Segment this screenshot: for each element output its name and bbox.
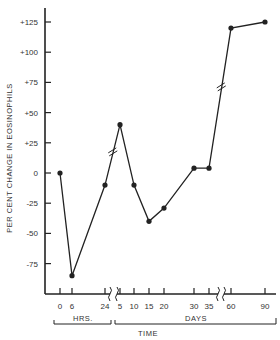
data-point [131, 182, 136, 187]
y-tick-label: +100 [20, 48, 39, 57]
x-tick-label: 60 [227, 302, 236, 311]
x-tick-label: 5 [118, 302, 123, 311]
x-tick-label: 6 [70, 302, 75, 311]
data-point [146, 219, 151, 224]
y-tick-label: +25 [24, 139, 38, 148]
x-tick-label: 0 [58, 302, 63, 311]
x-tick-label: 30 [190, 302, 199, 311]
data-point [102, 182, 107, 187]
x-tick-label: 24 [101, 302, 110, 311]
y-tick-label: -50 [26, 229, 38, 238]
y-tick-label: +75 [24, 78, 38, 87]
y-tick-label: +125 [20, 18, 39, 27]
eosinophil-line-chart: +125+100+75+50+250-25-50-75 062451015203… [0, 0, 280, 340]
x-group-days-label: DAYS [185, 314, 207, 323]
data-point [191, 166, 196, 171]
data-point [161, 205, 166, 210]
x-tick-label: 90 [261, 302, 270, 311]
x-tick-label: 35 [205, 302, 214, 311]
data-point [57, 170, 62, 175]
data-series [57, 19, 267, 278]
y-tick-label: -75 [26, 260, 38, 269]
data-point [206, 166, 211, 171]
data-point [228, 25, 233, 30]
y-axis-ticks: +125+100+75+50+250-25-50-75 [20, 18, 51, 269]
x-axis-title: TIME [138, 329, 158, 338]
y-tick-label: 0 [34, 169, 39, 178]
data-point [69, 273, 74, 278]
axes [45, 8, 276, 294]
x-group-hrs-label: HRS. [73, 314, 93, 323]
x-tick-label: 20 [160, 302, 169, 311]
y-axis-title: PER CENT CHANGE IN EOSINOPHILS [5, 83, 14, 232]
series-line [60, 22, 265, 276]
x-tick-label: 10 [130, 302, 139, 311]
data-point [117, 122, 122, 127]
data-point [262, 19, 267, 24]
x-tick-label: 15 [145, 302, 154, 311]
y-tick-label: +50 [24, 109, 38, 118]
y-tick-label: -25 [26, 199, 38, 208]
axis-breaks [108, 83, 226, 301]
